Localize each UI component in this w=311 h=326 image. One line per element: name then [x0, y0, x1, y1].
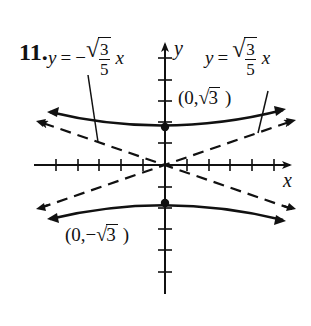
leader-positive-asymptote	[258, 91, 268, 133]
asymptote-negative-label: y = − √ 3 5 x	[48, 37, 124, 78]
x-axis-label: x	[283, 170, 292, 190]
lower-branch-arrow-left	[47, 213, 59, 223]
asymptote-arrow-upper-left	[36, 119, 46, 127]
vertex-upper-label: (0, √ 3 )	[178, 87, 231, 107]
asymptote-negative-lhs: y	[48, 48, 56, 67]
problem-number: 11.	[19, 40, 48, 64]
asymptote-negative-sign: −	[75, 48, 86, 67]
asymptote-positive-var: x	[262, 48, 270, 67]
asymptote-negative-equals: =	[60, 48, 71, 67]
asymptote-negative-fraction: 3 5	[99, 41, 110, 78]
asymptote-positive-equals: =	[217, 48, 228, 67]
asymptote-arrow-lower-left	[36, 203, 46, 211]
asymptote-arrow-lower-right	[286, 203, 296, 211]
vertex-lower-label: (0,− √ 3 )	[65, 224, 129, 244]
vertex-lower-dot	[161, 199, 169, 207]
asymptote-positive-lhs: y	[205, 48, 213, 67]
asymptote-negative-var: x	[116, 48, 124, 67]
asymptote-arrow-upper-right	[286, 118, 296, 126]
upper-branch-arrow-right	[274, 106, 286, 116]
asymptote-positive-fraction: 3 5	[245, 41, 256, 78]
sqrt-icon: √ 3 5	[232, 37, 257, 78]
vertex-upper-dot	[161, 123, 169, 131]
sqrt-icon: √ 3	[199, 87, 220, 107]
sqrt-icon: √ 3 5	[86, 37, 111, 78]
upper-branch-arrow-left	[47, 107, 59, 117]
leader-negative-asymptote	[88, 75, 98, 142]
y-axis-label: y	[174, 38, 183, 58]
sqrt-icon: √ 3	[96, 224, 117, 244]
asymptote-positive-label: y = √ 3 5 x	[205, 37, 270, 78]
lower-branch-arrow-right	[274, 215, 286, 225]
y-axis	[158, 44, 172, 294]
